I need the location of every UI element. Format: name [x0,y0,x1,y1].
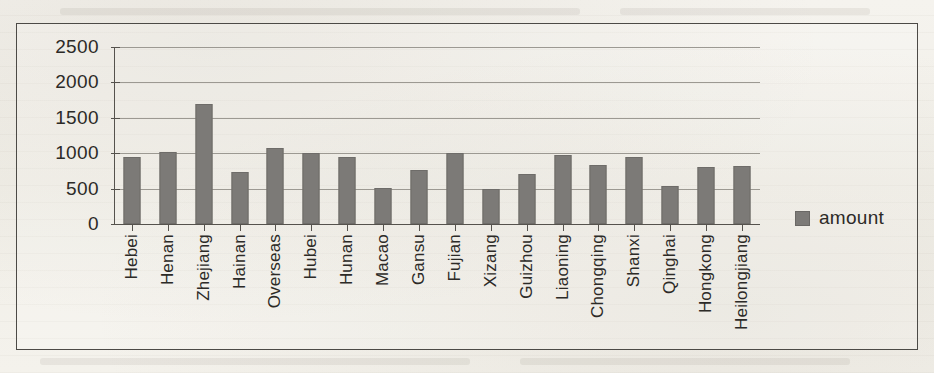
x-label-overseas: Overseas [265,234,285,308]
x-label-qinghai: Qinghai [660,234,680,294]
x-axis-line [114,224,760,225]
x-axis-category-labels: HebeiHenanZhejiangHainanOverseasHubeiHun… [114,232,760,344]
bar-slot [329,47,365,224]
bar-qinghai[interactable] [662,186,679,224]
bar-slot [222,47,258,224]
bar-liaoning[interactable] [554,155,571,224]
bar-shanxi[interactable] [626,157,643,224]
x-tick-xizang [491,224,492,231]
y-tick-label-1000: 1000 [55,142,99,164]
bar-fujian[interactable] [446,153,463,224]
bar-heilongjiang[interactable] [734,166,751,224]
y-tick-label-500: 500 [66,178,99,200]
x-label-slot: Gansu [401,232,437,344]
x-tick-chongqing [598,224,599,231]
x-label-slot: Heilongjiang [724,232,760,344]
background-showthrough-text [60,8,580,15]
bar-slot [186,47,222,224]
x-label-slot: Macao [365,232,401,344]
bar-slot [652,47,688,224]
bar-macao[interactable] [375,188,392,224]
x-tick-hongkong [706,224,707,231]
x-tick-fujian [455,224,456,231]
x-tick-liaoning [563,224,564,231]
x-label-slot: Shanxi [616,232,652,344]
bar-slot [150,47,186,224]
x-tick-macao [383,224,384,231]
x-label-shanxi: Shanxi [624,234,644,287]
x-label-slot: Hongkong [688,232,724,344]
bar-slot [258,47,294,224]
y-tick-label-2000: 2000 [55,71,99,93]
y-tick-label-1500: 1500 [55,107,99,129]
x-tick-guizhou [527,224,528,231]
chart-legend: amount [795,207,884,229]
x-tick-shanxi [634,224,635,231]
x-label-hebei: Hebei [122,234,142,279]
bar-slot [688,47,724,224]
background-showthrough-text [40,358,470,365]
x-label-slot: Hunan [329,232,365,344]
x-label-slot: Liaoning [545,232,581,344]
bar-slot [545,47,581,224]
legend-label-amount: amount [819,207,884,229]
bar-zhejiang[interactable] [195,104,212,224]
bar-slot [437,47,473,224]
x-label-slot: Henan [150,232,186,344]
bar-hunan[interactable] [339,157,356,224]
x-label-hunan: Hunan [337,234,357,285]
x-tick-hunan [347,224,348,231]
bar-xizang[interactable] [482,189,499,224]
x-label-hainan: Hainan [230,234,250,289]
x-label-xizang: Xizang [481,234,501,287]
x-label-slot: Hebei [114,232,150,344]
bar-slot [616,47,652,224]
x-tick-qinghai [670,224,671,231]
x-tick-zhejiang [204,224,205,231]
bar-slot [365,47,401,224]
bar-slot [724,47,760,224]
bar-guizhou[interactable] [518,174,535,224]
bar-chongqing[interactable] [590,165,607,224]
bar-hongkong[interactable] [698,167,715,224]
bar-slot [581,47,617,224]
background-showthrough-text [620,8,870,15]
bar-overseas[interactable] [267,148,284,224]
bar-hainan[interactable] [231,172,248,224]
bar-slot [401,47,437,224]
x-label-slot: Fujian [437,232,473,344]
x-label-gansu: Gansu [409,234,429,285]
legend-swatch-amount [795,211,810,226]
x-label-chongqing: Chongqing [588,234,608,318]
bar-gansu[interactable] [411,170,428,224]
chart-plot-wrapper: 25002000150010005000 HebeiHenanZhejiangH… [17,24,919,351]
x-label-zhejiang: Zhejiang [194,234,214,301]
y-axis: 25002000150010005000 [23,24,99,351]
bar-hubei[interactable] [303,153,320,225]
background-showthrough-text [520,358,850,365]
x-label-liaoning: Liaoning [553,234,573,300]
bar-henan[interactable] [159,152,176,224]
x-label-slot: Overseas [258,232,294,344]
chart-frame: 25002000150010005000 HebeiHenanZhejiangH… [16,23,918,350]
x-tick-overseas [275,224,276,231]
x-label-heilongjiang: Heilongjiang [732,234,752,330]
bar-slot [114,47,150,224]
bar-hebei[interactable] [123,157,140,224]
x-label-slot: Qinghai [652,232,688,344]
x-label-slot: Zhejiang [186,232,222,344]
x-tick-gansu [419,224,420,231]
x-tick-hainan [240,224,241,231]
x-tick-henan [168,224,169,231]
x-label-fujian: Fujian [445,234,465,282]
x-tick-heilongjiang [742,224,743,231]
x-label-slot: Xizang [473,232,509,344]
bar-slot [509,47,545,224]
x-label-slot: Hubei [293,232,329,344]
bars-container [114,47,760,224]
bar-slot [293,47,329,224]
bar-slot [473,47,509,224]
x-label-slot: Guizhou [509,232,545,344]
y-tick-label-0: 0 [88,213,99,235]
x-label-slot: Chongqing [581,232,617,344]
